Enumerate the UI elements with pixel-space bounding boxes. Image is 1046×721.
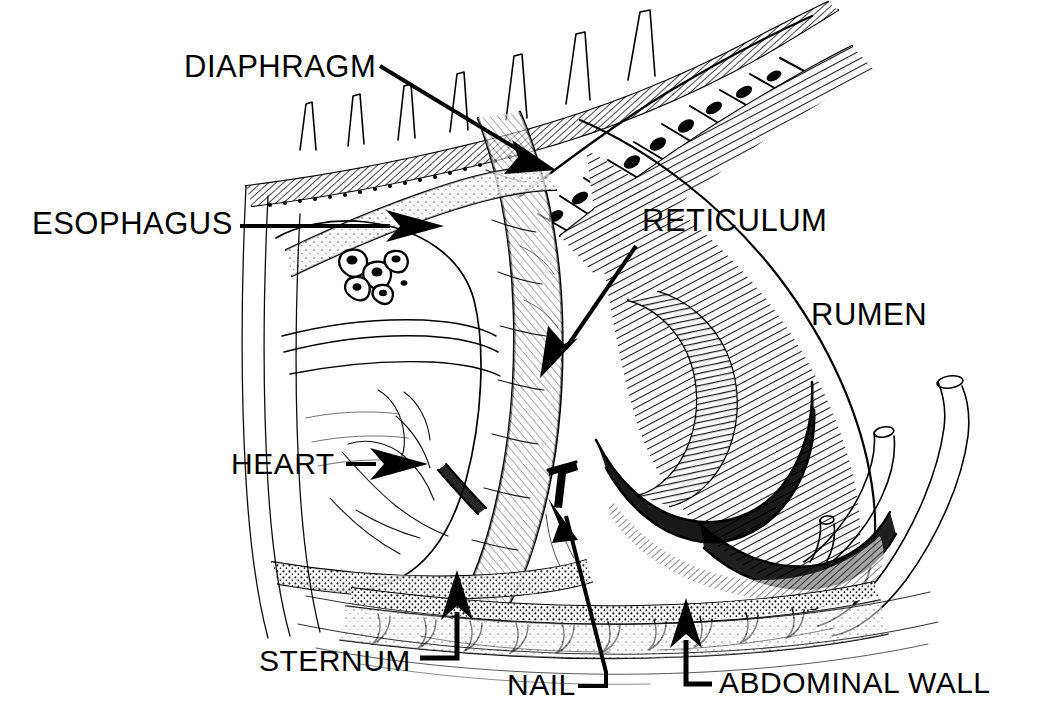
label-rumen: RUMEN xyxy=(811,299,927,330)
anatomical-figure: DIAPHRAGM ESOPHAGUS RETICULUM RUMEN HEAR… xyxy=(0,0,1046,721)
label-abdominal-wall: ABDOMINAL WALL xyxy=(719,668,991,698)
label-esophagus: ESOPHAGUS xyxy=(32,208,233,239)
cropped-caption-sliver xyxy=(330,712,1030,721)
label-reticulum: RETICULUM xyxy=(642,205,827,236)
label-sternum: STERNUM xyxy=(259,646,411,676)
label-diaphragm: DIAPHRAGM xyxy=(184,51,376,82)
label-nail: NAIL xyxy=(507,670,576,700)
label-heart: HEART xyxy=(231,449,335,479)
anatomy-line-art xyxy=(0,0,1046,721)
